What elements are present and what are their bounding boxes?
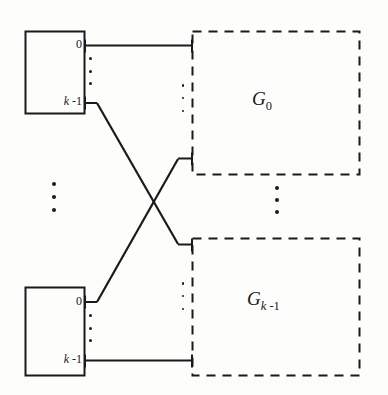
port-label-bottom-first: 0 xyxy=(42,294,82,309)
port-label-bottom-last: k -1 xyxy=(36,352,82,367)
ellipsis-groups xyxy=(274,186,280,214)
link-topklast-to-grouplast-diagonal xyxy=(97,103,178,244)
port-label-top-first: 0 xyxy=(42,37,82,52)
group-label-0: G0 xyxy=(252,88,272,114)
link-bottom0-to-group0-diagonal xyxy=(97,159,178,302)
ellipsis-bottom-module-ports xyxy=(87,314,93,342)
diagram-canvas: 0 k -1 0 k -1 G0 Gk -1 xyxy=(0,0,388,395)
group-label-last: Gk -1 xyxy=(247,288,280,314)
ellipsis-top-module-ports xyxy=(87,57,93,85)
diagram-graphics xyxy=(0,0,388,395)
port-label-top-last: k -1 xyxy=(36,94,82,109)
ellipsis-modules xyxy=(51,182,57,212)
group-box-0 xyxy=(193,32,360,175)
ellipsis-top-group-links xyxy=(180,84,186,112)
ellipsis-bottom-group-links xyxy=(180,282,186,310)
